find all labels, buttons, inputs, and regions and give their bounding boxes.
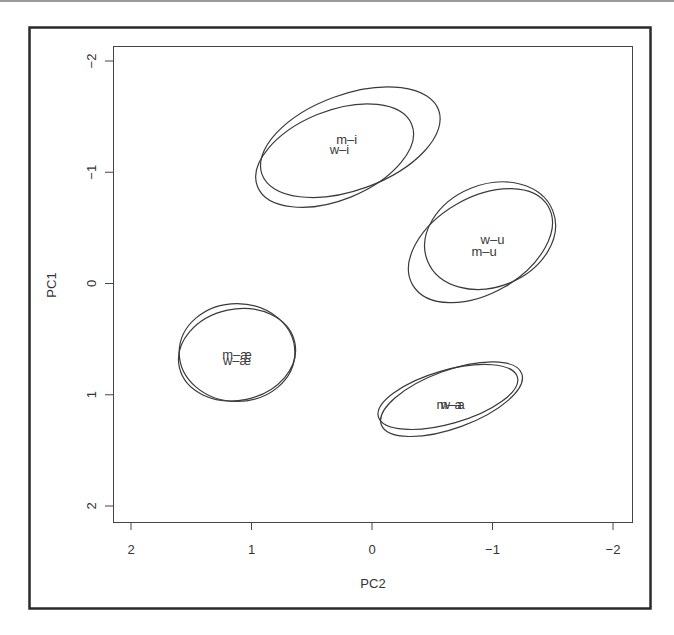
point-label: m–u <box>471 244 496 259</box>
ellipse-layer <box>170 65 572 452</box>
x-axis: 210−1−2 <box>127 522 620 557</box>
outer-frame <box>30 28 651 609</box>
x-tick-label: 0 <box>368 542 375 557</box>
x-tick-label: −1 <box>485 542 500 557</box>
point-label-layer: m–iw–iw–um–um–æw–æm–aw–a <box>222 132 504 412</box>
point-label: w–a <box>440 397 466 412</box>
point-label: w–i <box>329 142 350 157</box>
y-tick-label: 1 <box>84 391 99 398</box>
x-axis-title: PC2 <box>360 576 385 591</box>
x-tick-label: −2 <box>606 542 621 557</box>
y-axis-title: PC1 <box>44 272 59 297</box>
x-tick-label: 1 <box>248 542 255 557</box>
pca-ellipse-chart: m–iw–iw–um–um–æw–æm–aw–a 210−1−2 −2−1012… <box>0 0 674 635</box>
y-tick-label: −2 <box>84 54 99 69</box>
y-tick-label: −1 <box>84 165 99 180</box>
x-tick-label: 2 <box>127 542 134 557</box>
point-label: w–æ <box>222 353 251 368</box>
y-tick-label: 0 <box>84 280 99 287</box>
y-axis: −2−1012 <box>84 54 113 510</box>
plot-area <box>114 47 633 523</box>
y-tick-label: 2 <box>84 502 99 509</box>
